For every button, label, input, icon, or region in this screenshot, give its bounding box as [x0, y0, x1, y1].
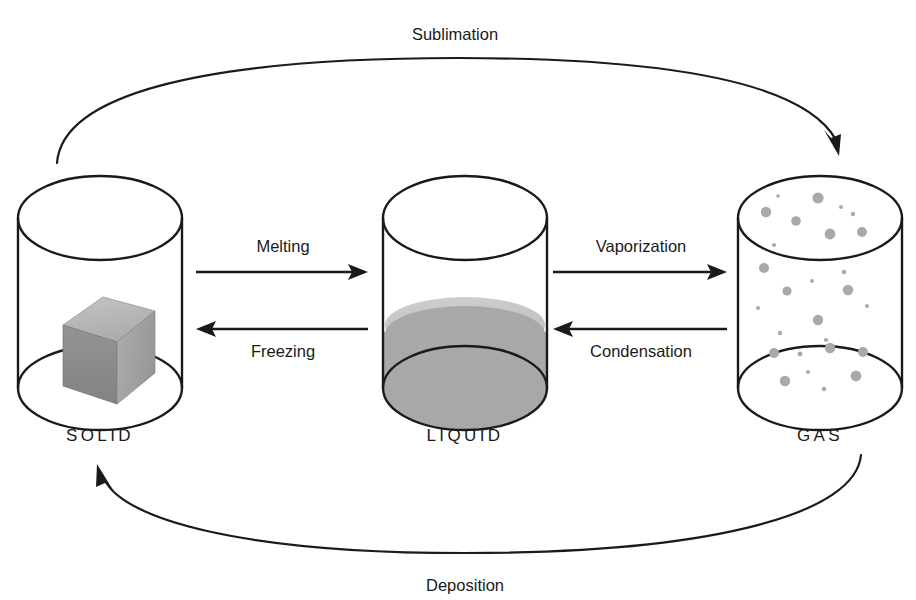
liquid-surface-ellipse — [385, 306, 545, 362]
gas-particle — [798, 352, 803, 357]
gas-particle — [761, 207, 771, 217]
process-label-freezing: Freezing — [251, 342, 315, 360]
deposition-curve — [106, 455, 861, 553]
state-vessel-solid — [18, 176, 182, 430]
gas-particle — [782, 286, 791, 295]
gas-particle — [813, 315, 823, 325]
curved-arrow-sublimation: Sublimation — [57, 25, 841, 163]
process-arrow-vaporization: Vaporization — [553, 237, 727, 280]
gas-particle — [851, 371, 862, 382]
curve-label-deposition: Deposition — [426, 576, 504, 594]
state-label-solid: SOLID — [66, 426, 134, 445]
process-label-condensation: Condensation — [590, 342, 692, 360]
phase-diagram-canvas: SOLID LIQUID — [0, 0, 916, 600]
gas-particle — [858, 347, 868, 357]
sublimation-curve — [57, 58, 836, 163]
liquid-vessel-top-ellipse — [383, 176, 547, 260]
gas-particle — [780, 376, 790, 386]
gas-particle — [822, 387, 826, 391]
gas-particle — [772, 243, 776, 247]
ice-cube-icon — [63, 297, 155, 404]
curved-arrow-deposition: Deposition — [96, 455, 861, 594]
gas-particle — [839, 205, 843, 209]
gas-particle — [824, 338, 828, 342]
gas-particle — [769, 348, 779, 358]
state-vessel-liquid — [383, 176, 547, 430]
deposition-arrow-head — [96, 464, 113, 490]
gas-particle — [791, 216, 801, 226]
state-label-gas: GAS — [797, 426, 843, 445]
gas-vessel-bottom-ellipse — [738, 346, 902, 430]
process-label-vaporization: Vaporization — [596, 237, 687, 255]
gas-particle — [857, 227, 867, 237]
state-vessel-gas — [738, 176, 902, 430]
gas-particle — [812, 192, 823, 203]
gas-particle — [865, 304, 869, 308]
solid-vessel-top-ellipse — [18, 176, 182, 260]
gas-particle — [825, 229, 836, 240]
process-label-melting: Melting — [256, 237, 309, 255]
gas-particle — [825, 343, 835, 353]
gas-particle — [842, 270, 847, 275]
gas-particle — [843, 285, 853, 295]
gas-particle — [756, 306, 760, 310]
gas-particle — [806, 370, 810, 374]
gas-particle — [810, 279, 814, 283]
state-label-liquid: LIQUID — [426, 426, 503, 445]
gas-particle — [851, 212, 855, 216]
gas-vessel-top-ellipse — [738, 176, 902, 260]
process-arrow-freezing: Freezing — [196, 321, 368, 360]
curve-label-sublimation: Sublimation — [412, 25, 498, 43]
process-arrow-condensation: Condensation — [553, 321, 727, 360]
gas-particle — [778, 331, 782, 335]
process-arrow-melting: Melting — [196, 237, 368, 280]
gas-particle — [776, 194, 780, 198]
gas-particle-layer — [756, 192, 869, 391]
gas-particle — [759, 263, 769, 273]
phase-change-diagram: SOLID LIQUID — [0, 0, 916, 600]
